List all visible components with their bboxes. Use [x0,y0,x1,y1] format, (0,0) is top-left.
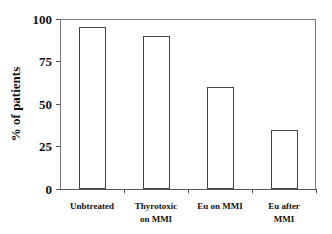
x-label-thyrotoxic: Thyrotoxicon MMI [124,200,188,226]
y-tick-label-50: 50 [20,98,52,111]
x-label-eu-on-mmi: Eu on MMI [188,200,252,213]
bar-chart: % of patients 100 75 50 25 0 Unbtreated … [0,0,332,234]
y-tick-label-0: 0 [20,183,52,196]
x-tick [124,189,125,193]
x-tick [188,189,189,193]
bar [79,27,106,189]
x-axis-line [56,189,317,190]
bar [271,130,298,189]
bar [207,87,234,189]
x-tick [316,189,317,193]
bar [143,36,170,189]
y-tick-label-25: 25 [20,140,52,153]
x-label-untreated: Unbtreated [60,200,124,213]
x-tick [252,189,253,193]
y-tick-label-75: 75 [20,55,52,68]
x-label-eu-after-mmi: Eu afterMMI [252,200,316,226]
y-tick-label-100: 100 [20,13,52,26]
